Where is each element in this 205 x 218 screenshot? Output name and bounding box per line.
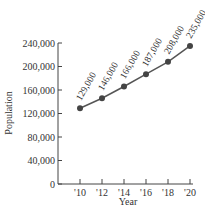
x-tick-label: '12 [96, 187, 108, 198]
x-tick-label: '16 [140, 187, 152, 198]
data-point [99, 95, 105, 101]
y-tick-label: 160,000 [23, 85, 56, 96]
line-chart: 040,00080,000120,000160,000200,000240,00… [0, 0, 205, 218]
y-tick-label: 200,000 [23, 61, 56, 72]
x-tick-label: '10 [74, 187, 86, 198]
data-point [77, 105, 83, 111]
y-tick-label: 240,000 [23, 38, 56, 49]
y-tick-label: 120,000 [23, 108, 56, 119]
data-point [121, 83, 127, 89]
data-point [143, 71, 149, 77]
x-axis-label: Year [119, 196, 138, 207]
data-label: 129,000 [74, 70, 98, 102]
data-point [165, 59, 171, 65]
data-point [187, 43, 193, 49]
x-tick-label: '18 [162, 187, 174, 198]
plot-area: 129,000146,000166,000187,000208,000235,0… [74, 8, 205, 111]
data-label: 235,000 [184, 8, 205, 40]
data-label: 166,000 [118, 49, 142, 81]
x-tick-label: '20 [184, 187, 196, 198]
y-tick-label: 40,000 [28, 155, 56, 166]
data-label: 146,000 [96, 60, 120, 92]
data-label: 187,000 [140, 36, 164, 68]
y-tick-label: 80,000 [28, 132, 56, 143]
y-tick-label: 0 [50, 179, 55, 190]
y-axis-label: Population [3, 91, 14, 134]
